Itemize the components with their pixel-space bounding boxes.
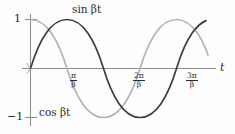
- trig-functions-figure: sin βt cos βt 1 −1 t π β 2π β 3π β: [0, 0, 235, 134]
- x-tick-numerator: π: [70, 72, 77, 80]
- sin-curve-label: sin βt: [72, 4, 101, 15]
- cos-curve-label: cos βt: [39, 107, 70, 118]
- x-tick-label-three-pi-over-beta: 3π β: [186, 72, 198, 88]
- x-tick-numerator: 3π: [186, 72, 198, 80]
- y-tick-label-negative-one: −1: [7, 111, 23, 122]
- y-tick-label-one: 1: [14, 13, 21, 24]
- x-tick-denominator: β: [133, 80, 145, 89]
- x-tick-denominator: β: [70, 80, 77, 89]
- x-tick-denominator: β: [186, 80, 198, 89]
- x-tick-numerator: 2π: [133, 72, 145, 80]
- x-tick-label-two-pi-over-beta: 2π β: [133, 72, 145, 88]
- plot-canvas: [0, 0, 235, 134]
- x-axis-label: t: [220, 62, 224, 73]
- x-tick-label-pi-over-beta: π β: [70, 72, 77, 88]
